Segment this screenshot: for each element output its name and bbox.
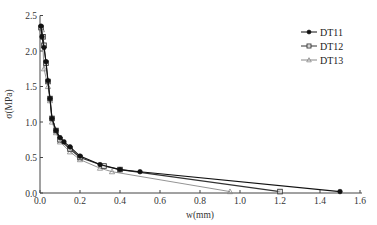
circle-marker [138,169,143,174]
x-axis-label: w(mm) [186,210,214,221]
series-line [42,30,230,192]
legend-item-dt11: DT11 [301,27,343,38]
series-dt12 [39,25,283,194]
legend-item-dt13: DT13 [301,55,343,66]
y-axis-label: σ(MPa) [4,89,15,118]
legend: DT11DT12DT13 [301,27,343,66]
series-line [41,28,280,192]
circle-marker [98,162,103,167]
y-tick-label: 1.0 [25,118,37,128]
circle-marker [54,128,59,133]
series-dt11 [39,24,343,194]
y-tick-label: 2.5 [25,11,37,21]
legend-label: DT11 [320,27,343,38]
circle-marker [39,24,44,29]
circle-marker [42,45,47,50]
circle-marker [78,154,83,159]
x-tick-label: 0.4 [114,196,126,206]
x-tick-label: 1.0 [234,196,246,206]
circle-marker [118,167,123,172]
circle-marker [46,79,51,84]
circle-marker [307,30,311,34]
square-marker [278,189,283,194]
circle-marker [338,189,343,194]
legend-label: DT12 [320,41,343,52]
series-line [41,26,340,192]
y-tick-label: 1.5 [25,82,37,92]
y-tick-label: 2.0 [25,47,37,57]
circle-marker [58,135,63,140]
y-tick-label: 0.0 [25,189,37,199]
circle-marker [50,116,55,121]
square-marker [307,44,311,48]
series-group [39,24,343,194]
circle-marker [44,59,49,64]
legend-label: DT13 [320,55,343,66]
circle-marker [40,35,45,40]
x-tick-label: 1.6 [354,196,366,206]
x-tick-label: 0.6 [154,196,166,206]
legend-item-dt12: DT12 [301,41,343,52]
series-dt13 [39,27,232,194]
circle-marker [48,96,53,101]
x-tick-label: 0.8 [194,196,206,206]
x-tick-label: 1.2 [274,196,286,206]
circle-marker [62,140,67,145]
x-tick-label: 0.2 [74,196,86,206]
x-tick-label: 1.4 [314,196,326,206]
circle-marker [68,145,73,150]
stress-displacement-chart: 0.00.20.40.60.81.01.21.41.60.00.51.01.52… [0,0,377,225]
y-tick-label: 0.5 [25,153,37,163]
